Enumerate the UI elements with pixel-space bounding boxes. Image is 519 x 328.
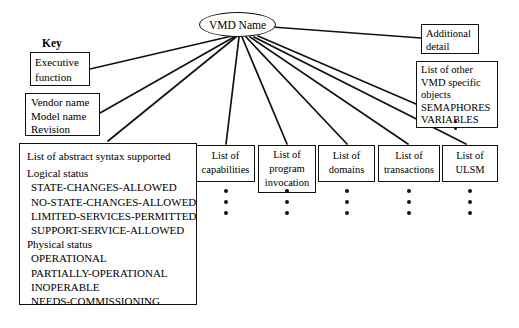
abstract-syntax-line-2: Logical status (27, 166, 189, 180)
executive-function-line-1: Executive (35, 55, 85, 70)
edge-to-program-invocation (242, 37, 287, 144)
dot (407, 211, 411, 215)
dot (468, 189, 472, 193)
dot (345, 200, 349, 204)
edge-to-abstract-syntax (108, 37, 236, 141)
abstract-syntax-line-8: OPERATIONAL (27, 251, 189, 265)
dot (224, 189, 228, 193)
node-executive-function[interactable]: Executive function (30, 52, 90, 86)
dot (407, 200, 411, 204)
node-program-invocation[interactable]: List of program invocation (258, 145, 316, 193)
program-invocation-line-1: List of (261, 148, 313, 162)
capabilities-ellipsis-dots (224, 189, 228, 215)
vendor-line-2: Model name (31, 110, 94, 124)
node-other-vmd-objects[interactable]: List of other VMD specific objects SEMAP… (416, 61, 498, 128)
ulsm-line-1: List of (445, 149, 495, 163)
node-abstract-syntax[interactable]: List of abstract syntax supported Logica… (19, 143, 197, 305)
dot (285, 200, 289, 204)
abstract-syntax-line-6: SUPPORT-SERVICE-ALLOWED (27, 223, 189, 237)
edge-to-executive-function (90, 36, 232, 69)
other-objects-line-1: List of other (421, 64, 493, 77)
other-objects-line-2: VMD specific (421, 77, 493, 90)
capabilities-line-2: capabilities (199, 163, 252, 177)
domains-line-2: domains (321, 163, 372, 177)
executive-function-line-2: function (35, 70, 85, 85)
program-invocation-ellipsis-dots (285, 189, 289, 215)
other-objects-line-4: SEMAPHORES (421, 102, 493, 115)
other-objects-line-5: VARIABLES (421, 114, 493, 127)
transactions-ellipsis-dots (407, 189, 411, 215)
root-node-vmd-name[interactable]: VMD Name (199, 12, 276, 37)
dot (345, 189, 349, 193)
dot (285, 211, 289, 215)
dot (285, 189, 289, 193)
transactions-line-2: transactions (381, 163, 437, 177)
dot (454, 120, 457, 123)
additional-detail-line-1: Additional (426, 27, 474, 40)
node-ulsm[interactable]: List of ULSM (442, 145, 498, 182)
node-additional-detail[interactable]: Additional detail (421, 24, 479, 54)
abstract-syntax-line-1: List of abstract syntax supported (27, 149, 189, 163)
dot (468, 211, 472, 215)
edge-to-other-objects (258, 36, 416, 104)
abstract-syntax-line-11: NEEDS-COMMISSIONING (27, 294, 189, 308)
abstract-syntax-line-10: INOPERABLE (27, 280, 189, 294)
dot (224, 200, 228, 204)
edge-to-vendor (100, 37, 234, 113)
ulsm-ellipsis-dots (468, 189, 472, 215)
transactions-line-1: List of (381, 149, 437, 163)
abstract-syntax-line-7: Physical status (27, 237, 189, 251)
dot (224, 211, 228, 215)
dot (468, 200, 472, 204)
program-invocation-line-2: program (261, 162, 313, 176)
dot (407, 189, 411, 193)
node-transactions[interactable]: List of transactions (378, 145, 440, 182)
capabilities-line-1: List of (199, 149, 252, 163)
other-objects-ellipsis-dots (454, 120, 457, 130)
root-node-label: VMD Name (209, 19, 266, 31)
domains-ellipsis-dots (345, 189, 349, 215)
node-vendor[interactable]: Vendor name Model name Revision (25, 93, 100, 136)
other-objects-line-3: objects (421, 89, 493, 102)
abstract-syntax-line-3: STATE-CHANGES-ALLOWED (27, 180, 189, 194)
key-label: Key (42, 37, 62, 49)
node-domains[interactable]: List of domains (318, 145, 375, 182)
vendor-line-1: Vendor name (31, 96, 94, 110)
vendor-line-3: Revision (31, 123, 94, 137)
edge-to-capabilities (226, 37, 239, 144)
abstract-syntax-line-5: LIMITED-SERVICES-PERMITTED (27, 209, 189, 223)
dot (454, 127, 457, 130)
domains-line-1: List of (321, 149, 372, 163)
node-capabilities[interactable]: List of capabilities (196, 145, 255, 182)
vmd-hierarchy-diagram: VMD Name Key Executive function Vendor n… (0, 0, 519, 328)
dot (345, 211, 349, 215)
edge-to-additional-detail (272, 27, 421, 38)
program-invocation-line-3: invocation (261, 176, 313, 190)
additional-detail-line-2: detail (426, 40, 474, 53)
abstract-syntax-line-9: PARTIALLY-OPERATIONAL (27, 266, 189, 280)
ulsm-line-2: ULSM (445, 163, 495, 177)
abstract-syntax-line-4: NO-STATE-CHANGES-ALLOWED (27, 195, 189, 209)
